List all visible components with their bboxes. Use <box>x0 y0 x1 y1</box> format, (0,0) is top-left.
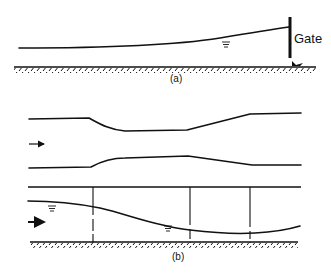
hydraulics-diagram: Gate (a) <box>0 0 331 278</box>
part-b-label: (b) <box>172 251 184 262</box>
part-a-label: (a) <box>170 73 182 84</box>
channel-wall-bottom <box>29 156 301 168</box>
channel-wall-top <box>29 113 301 131</box>
gate-outflow-jet <box>292 61 303 66</box>
part-a: Gate (a) <box>14 17 322 84</box>
water-surface-profile-b <box>28 201 300 233</box>
part-b-profile-view: (b) <box>28 187 301 262</box>
water-surface-triangle-icon <box>222 42 230 47</box>
bed-hatching-b <box>30 243 298 248</box>
water-surface-profile-a <box>19 27 289 48</box>
part-b-plan-view <box>29 113 301 168</box>
water-surface-triangle-icon <box>48 206 56 211</box>
gate-label: Gate <box>294 31 322 46</box>
bed-hatching-a <box>14 68 316 73</box>
